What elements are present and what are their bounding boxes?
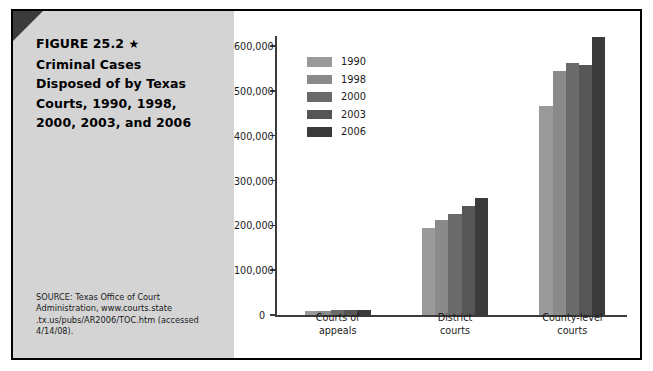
source-line-1: SOURCE: Texas Office of Court bbox=[36, 292, 160, 302]
category-label-line: District bbox=[438, 312, 472, 323]
chart-legend: 19901998200020032006 bbox=[307, 53, 366, 141]
figure-title-line-1: Criminal Cases bbox=[36, 57, 141, 72]
category-label-line: Courts of bbox=[316, 312, 360, 323]
bar bbox=[475, 198, 488, 315]
star-icon: ★ bbox=[129, 37, 140, 51]
legend-label: 2000 bbox=[341, 91, 366, 102]
y-tick-label: 100,000 bbox=[234, 265, 265, 276]
y-tick-label: 200,000 bbox=[234, 220, 265, 231]
source-line-3: .tx.us/pubs/AR2006/TOC.htm (accessed bbox=[36, 315, 199, 325]
legend-label: 2006 bbox=[341, 126, 366, 137]
y-tick-label: 0 bbox=[234, 310, 265, 321]
figure-title-line-4: 2000, 2003, and 2006 bbox=[36, 115, 191, 130]
bar bbox=[579, 65, 592, 315]
legend-item: 2003 bbox=[307, 106, 366, 124]
y-tick-mark bbox=[270, 314, 276, 315]
figure-title-line-3: Courts, 1990, 1998, bbox=[36, 96, 177, 111]
legend-swatch bbox=[307, 127, 332, 137]
category-label: County-levelcourts bbox=[517, 312, 627, 337]
bar bbox=[462, 206, 475, 315]
category-label: Courts ofappeals bbox=[283, 312, 393, 337]
y-tick-label: 400,000 bbox=[234, 130, 265, 141]
legend-label: 1990 bbox=[341, 56, 366, 67]
bar bbox=[539, 106, 552, 315]
bar bbox=[435, 220, 448, 315]
legend-item: 1990 bbox=[307, 53, 366, 71]
category-label-line: courts bbox=[440, 325, 470, 336]
legend-swatch bbox=[307, 92, 332, 102]
figure-caption: FIGURE 25.2 ★ Criminal Cases Disposed of… bbox=[36, 34, 216, 133]
bar bbox=[566, 63, 579, 315]
source-line-2: Administration, www.courts.state bbox=[36, 303, 172, 313]
figure-root: FIGURE 25.2 ★ Criminal Cases Disposed of… bbox=[0, 0, 653, 371]
bar-chart-plot: 0100,000200,000300,000400,000500,000600,… bbox=[234, 11, 640, 358]
figure-title-line-2: Disposed of by Texas bbox=[36, 76, 186, 91]
legend-label: 1998 bbox=[341, 74, 366, 85]
legend-swatch bbox=[307, 57, 332, 67]
bar bbox=[422, 228, 435, 315]
caption-panel: FIGURE 25.2 ★ Criminal Cases Disposed of… bbox=[13, 11, 234, 358]
legend-swatch bbox=[307, 75, 332, 85]
category-label: Districtcourts bbox=[400, 312, 510, 337]
source-note: SOURCE: Texas Office of Court Administra… bbox=[36, 292, 222, 338]
legend-label: 2003 bbox=[341, 109, 366, 120]
source-line-4: 4/14/08). bbox=[36, 326, 73, 336]
legend-item: 1998 bbox=[307, 71, 366, 89]
category-label-line: appeals bbox=[319, 325, 357, 336]
legend-item: 2006 bbox=[307, 123, 366, 141]
bar bbox=[553, 71, 566, 315]
chart-panel: 0100,000200,000300,000400,000500,000600,… bbox=[234, 11, 640, 358]
bar bbox=[592, 37, 605, 315]
legend-swatch bbox=[307, 110, 332, 120]
category-label-line: courts bbox=[557, 325, 587, 336]
y-tick-label: 600,000 bbox=[234, 41, 265, 52]
bar bbox=[448, 214, 461, 315]
legend-item: 2000 bbox=[307, 88, 366, 106]
figure-number: FIGURE 25.2 bbox=[36, 36, 124, 51]
y-axis-line bbox=[275, 36, 277, 316]
category-label-line: County-level bbox=[542, 312, 602, 323]
y-tick-label: 300,000 bbox=[234, 175, 265, 186]
y-tick-label: 500,000 bbox=[234, 85, 265, 96]
